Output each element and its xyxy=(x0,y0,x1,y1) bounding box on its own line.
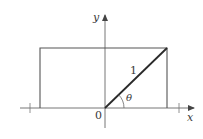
origin-label: 0 xyxy=(95,110,102,121)
y-axis-label: y xyxy=(93,12,99,23)
angle-arc xyxy=(119,95,124,108)
figure: y x 0 1 θ xyxy=(0,0,203,139)
unit-segment xyxy=(105,48,167,108)
x-axis-label: x xyxy=(187,112,193,123)
rectangle xyxy=(40,48,167,108)
length-label: 1 xyxy=(130,65,137,76)
angle-label: θ xyxy=(126,93,132,103)
